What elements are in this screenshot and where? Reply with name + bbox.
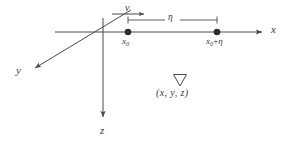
nabla-triangle-shape — [174, 75, 187, 87]
point-x0-label: x0 — [122, 37, 129, 47]
diagram-vector-layer — [0, 0, 292, 147]
point-x0-plus-eta-label-suffix: η — [218, 36, 222, 46]
x-axis-label: x — [271, 24, 276, 35]
point-x0-plus-eta-label: x0+η — [206, 37, 223, 47]
point-x0-dot — [125, 29, 132, 36]
point-x0-plus-eta-dot — [214, 29, 221, 36]
y-axis-line — [35, 10, 131, 68]
nabla-icon — [174, 75, 187, 87]
y-axis-label: y — [16, 65, 21, 76]
figure-canvas: x y z x0 x0+η η v (x, y, z) — [0, 0, 292, 147]
eta-measure-label: η — [168, 13, 173, 23]
velocity-label: v — [125, 3, 129, 13]
z-axis-label: z — [100, 125, 104, 136]
coordinate-tuple-label: (x, y, z) — [156, 88, 188, 98]
point-x0-label-subscript: 0 — [126, 40, 129, 47]
y-axis-group — [35, 10, 131, 68]
